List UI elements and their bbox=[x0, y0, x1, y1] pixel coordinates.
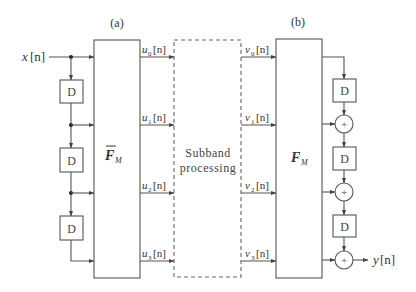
svg-text:[n]: [n] bbox=[153, 43, 166, 55]
input-label-var: x bbox=[21, 49, 28, 64]
polyphase-filterbank-diagram: (a) (b) x [n] D D D F M u0[n] u1 bbox=[0, 0, 416, 292]
svg-text:+: + bbox=[341, 254, 347, 266]
svg-text:0: 0 bbox=[148, 50, 152, 58]
svg-text:D: D bbox=[340, 84, 349, 98]
analysis-block: F M bbox=[94, 40, 140, 278]
analysis-symbol: F bbox=[104, 148, 115, 163]
svg-text:D: D bbox=[340, 152, 349, 166]
output-label-index: [n] bbox=[380, 252, 395, 267]
svg-text:0: 0 bbox=[251, 50, 255, 58]
analysis-subscript: M bbox=[114, 156, 123, 165]
panel-a-label: (a) bbox=[110, 16, 123, 30]
svg-text:+: + bbox=[341, 186, 347, 198]
svg-text:[n]: [n] bbox=[256, 247, 269, 259]
svg-text:2: 2 bbox=[148, 186, 152, 194]
svg-text:D: D bbox=[67, 222, 76, 236]
v-signals: v0[n] v1[n] v2[n] v3[n] bbox=[241, 43, 276, 262]
subband-processing-block: Subband processing bbox=[174, 40, 241, 277]
svg-text:1: 1 bbox=[251, 118, 255, 126]
synthesis-subscript: M bbox=[300, 158, 309, 167]
svg-text:processing: processing bbox=[180, 161, 236, 175]
svg-text:+: + bbox=[341, 118, 347, 130]
v3-label: v3[n] bbox=[245, 247, 269, 262]
svg-text:v: v bbox=[245, 179, 250, 191]
v2-label: v2[n] bbox=[245, 179, 269, 194]
svg-text:1: 1 bbox=[148, 118, 152, 126]
svg-text:[n]: [n] bbox=[153, 247, 166, 259]
input-label-index: [n] bbox=[30, 49, 45, 64]
svg-text:3: 3 bbox=[251, 254, 255, 262]
svg-text:D: D bbox=[340, 220, 349, 234]
svg-text:2: 2 bbox=[251, 186, 255, 194]
v0-label: v0[n] bbox=[245, 43, 269, 58]
svg-text:3: 3 bbox=[148, 254, 152, 262]
svg-text:[n]: [n] bbox=[256, 179, 269, 191]
u1-label: u1[n] bbox=[142, 111, 166, 126]
svg-text:Subband: Subband bbox=[185, 146, 231, 160]
svg-text:[n]: [n] bbox=[256, 43, 269, 55]
v1-label: v1[n] bbox=[245, 111, 269, 126]
svg-text:[n]: [n] bbox=[153, 111, 166, 123]
svg-text:v: v bbox=[245, 247, 250, 259]
svg-text:[n]: [n] bbox=[256, 111, 269, 123]
output-delay-adder-chain: D + D + D + y [n] bbox=[322, 57, 395, 269]
svg-text:[n]: [n] bbox=[153, 179, 166, 191]
output-label-var: y bbox=[371, 252, 379, 267]
svg-text:v: v bbox=[245, 111, 250, 123]
panel-b-label: (b) bbox=[291, 15, 305, 29]
synthesis-symbol: F bbox=[290, 150, 301, 165]
svg-text:D: D bbox=[67, 154, 76, 168]
u3-label: u3[n] bbox=[142, 247, 166, 262]
synthesis-block: F M bbox=[276, 39, 322, 278]
svg-text:D: D bbox=[67, 85, 76, 99]
u-signals: u0[n] u1[n] u2[n] u3[n] bbox=[140, 43, 174, 262]
u2-label: u2[n] bbox=[142, 179, 166, 194]
input-delay-chain: x [n] D D D bbox=[21, 49, 94, 261]
u0-label: u0[n] bbox=[142, 43, 166, 58]
svg-text:v: v bbox=[245, 43, 250, 55]
